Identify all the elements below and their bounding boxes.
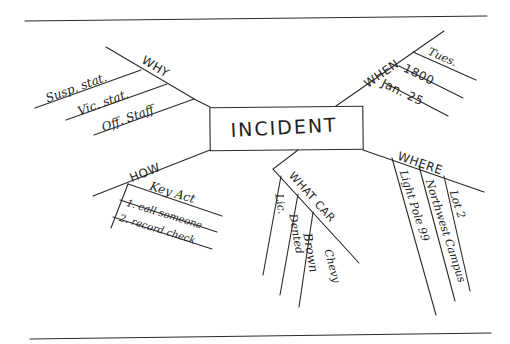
incident-diagram: INCIDENT WHY Susp. stat. Vic. stat. Off.… xyxy=(0,0,510,344)
bottom-rule xyxy=(30,333,491,339)
top-rule xyxy=(25,16,487,21)
what-sub-line-1 xyxy=(263,176,281,275)
what-item-1: Lic. xyxy=(273,193,287,215)
